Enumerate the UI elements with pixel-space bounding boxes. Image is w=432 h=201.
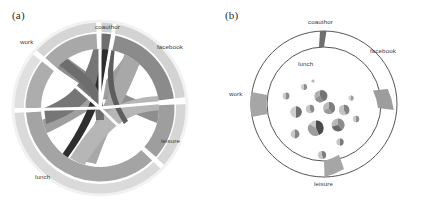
panel-b-node-annulus: (b) <box>216 0 432 201</box>
node-pie[interactable] <box>311 79 314 82</box>
sector-label-facebook-b: facebook <box>370 47 396 54</box>
sector-label-coauthor-b: coauthor <box>308 18 333 25</box>
figure-container: (a) <box>0 0 432 201</box>
sector-label-leisure-b: leisure <box>314 180 333 187</box>
node-pie[interactable] <box>353 116 359 122</box>
node-pie[interactable] <box>301 84 307 90</box>
sector-label-lunch-b: lunch <box>298 60 313 67</box>
separator-lunch-work <box>12 108 100 110</box>
sector-label-facebook-a: facebook <box>157 43 183 50</box>
node-pie[interactable] <box>336 138 343 145</box>
sector-label-coauthor-a: coauthor <box>95 23 120 30</box>
node-pie[interactable] <box>291 130 300 139</box>
node-pie[interactable] <box>290 106 302 118</box>
inner-circle-outline <box>267 47 381 161</box>
node-pie[interactable] <box>348 95 353 100</box>
chord-diagram-svg <box>0 0 216 201</box>
sector-label-lunch-a: lunch <box>35 173 50 180</box>
node-pie[interactable] <box>332 119 345 132</box>
segment-work[interactable] <box>250 92 267 117</box>
node-pie[interactable] <box>339 105 350 115</box>
node-pie[interactable] <box>283 93 290 100</box>
node-pie[interactable] <box>306 105 315 113</box>
panel-a-chord-diagram: (a) <box>0 0 216 201</box>
sector-label-work-a: work <box>20 38 33 45</box>
annulus-diagram-svg <box>216 0 432 201</box>
node-pie[interactable] <box>323 102 335 114</box>
sector-label-work-b: work <box>229 90 242 97</box>
sector-label-leisure-a: leisure <box>161 137 180 144</box>
node-pie[interactable] <box>318 151 326 159</box>
